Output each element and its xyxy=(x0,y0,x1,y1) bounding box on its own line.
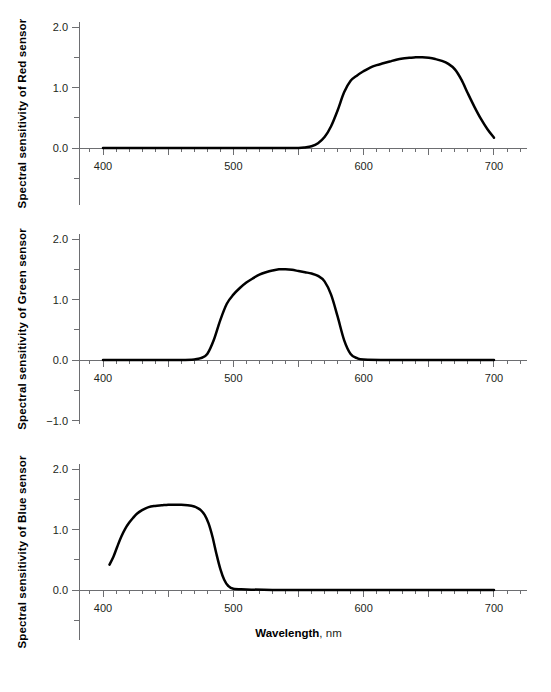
panel-blue: 4005006007000.01.02.0Spectral sensitivit… xyxy=(16,455,527,649)
curve-blue xyxy=(110,505,494,590)
x-tick-label: 400 xyxy=(94,160,112,172)
y-tick-label: 1.0 xyxy=(53,524,68,536)
y-tick-label: −1.0 xyxy=(46,415,68,427)
y-tick-label: 2.0 xyxy=(53,233,68,245)
y-tick-label: 0.0 xyxy=(53,354,68,366)
panel-red: 4005006007000.01.02.0Spectral sensitivit… xyxy=(16,18,527,208)
y-axis-ticks: −1.00.01.02.0 xyxy=(46,233,79,427)
y-axis-title-blue: Spectral sensitivity of Blue sensor xyxy=(16,455,28,649)
x-tick-label: 500 xyxy=(224,602,242,614)
chart-canvas: 4005006007000.01.02.0Spectral sensitivit… xyxy=(0,0,551,692)
y-axis-title-green: Spectral sensitivity of Green sensor xyxy=(16,228,28,430)
y-tick-label: 2.0 xyxy=(53,463,68,475)
y-tick-label: 0.0 xyxy=(53,142,68,154)
x-tick-label: 400 xyxy=(94,602,112,614)
x-tick-label: 400 xyxy=(94,372,112,384)
x-tick-label: 700 xyxy=(485,602,503,614)
x-tick-label: 700 xyxy=(485,160,503,172)
y-tick-label: 2.0 xyxy=(53,21,68,33)
x-axis-title: Wavelength, nm xyxy=(255,627,341,639)
y-tick-label: 0.0 xyxy=(53,584,68,596)
panel-green: 400500600700−1.00.01.02.0Spectral sensit… xyxy=(16,228,527,430)
x-tick-label: 600 xyxy=(354,372,372,384)
y-tick-label: 1.0 xyxy=(53,294,68,306)
curve-red xyxy=(103,57,494,148)
y-axis-title-red: Spectral sensitivity of Red sensor xyxy=(16,18,28,208)
x-tick-label: 600 xyxy=(354,602,372,614)
spectral-sensitivity-figure: 4005006007000.01.02.0Spectral sensitivit… xyxy=(0,0,551,692)
x-axis-title-bold: Wavelength xyxy=(255,627,319,639)
x-tick-label: 600 xyxy=(354,160,372,172)
y-axis-ticks: 0.01.02.0 xyxy=(53,463,79,620)
x-tick-label: 700 xyxy=(485,372,503,384)
y-tick-label: 1.0 xyxy=(53,82,68,94)
x-tick-label: 500 xyxy=(224,372,242,384)
curve-green xyxy=(103,269,494,360)
y-axis-ticks: 0.01.02.0 xyxy=(53,21,79,178)
x-axis-title-units: , nm xyxy=(319,627,341,639)
x-tick-label: 500 xyxy=(224,160,242,172)
